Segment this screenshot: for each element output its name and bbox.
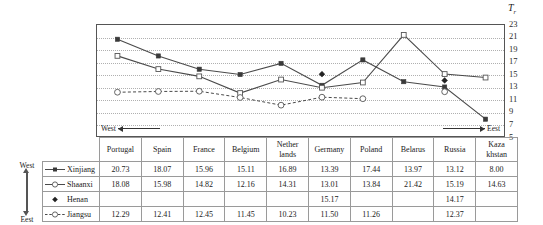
arrow-left-icon: [118, 125, 160, 132]
column-header-spain: Spain: [141, 138, 183, 162]
column-header-france: France: [183, 138, 225, 162]
column-header-germany: Germany: [308, 138, 350, 162]
legend-item-jiangsu[interactable]: Jiangsu: [43, 207, 100, 222]
cell-jiangsu-france: 12.45: [183, 207, 225, 222]
cell-xinjiang-poland: 17.44: [350, 162, 392, 177]
cell-shaanxi-belgium: 12.16: [225, 177, 267, 192]
column-header-belgium: Belgium: [225, 138, 267, 162]
chart-west-label: West: [101, 124, 116, 133]
datapoint-jiangsu-belgium: [237, 95, 243, 101]
column-header-kaza-khstan: Kazakhstan: [476, 138, 518, 162]
cell-henan-belarus: [392, 192, 434, 207]
table-row: Shaanxi18.0815.9814.8212.1614.3113.0113.…: [43, 177, 518, 192]
series-shaanxi: [115, 33, 488, 96]
cell-xinjiang-germany: 13.39: [308, 162, 350, 177]
datapoint-jiangsu-spain: [155, 89, 161, 95]
chart-plot-area: West Eest: [96, 24, 505, 137]
cell-henan-portugal: [100, 192, 142, 207]
y-tick-11: 11: [509, 95, 517, 104]
datapoint-shaanxi-nether-lands: [279, 77, 284, 82]
column-header-russia: Russia: [434, 138, 476, 162]
column-header-belarus: Belarus: [392, 138, 434, 162]
datapoint-shaanxi-poland: [360, 80, 365, 85]
legend-item-xinjiang[interactable]: Xinjiang: [43, 162, 100, 177]
cell-xinjiang-nether-lands: 16.89: [267, 162, 309, 177]
legend-marker-jiangsu-icon: [45, 210, 65, 219]
series-line-xinjiang: [117, 39, 485, 119]
cell-henan-france: [183, 192, 225, 207]
datapoint-jiangsu-poland: [360, 96, 366, 102]
cell-xinjiang-russia: 13.12: [434, 162, 476, 177]
cell-shaanxi-nether-lands: 14.31: [267, 177, 309, 192]
datapoint-jiangsu-germany: [319, 94, 325, 100]
series-line-shaanxi: [117, 35, 485, 93]
datapoint-xinjiang-spain: [156, 54, 160, 58]
datapoint-shaanxi-france: [197, 74, 202, 79]
series-plot: [97, 25, 506, 138]
cell-henan-spain: [141, 192, 183, 207]
datapoint-xinjiang-portugal: [115, 37, 119, 41]
cell-jiangsu-russia: 12.37: [434, 207, 476, 222]
datapoint-shaanxi-kaza-khstan: [483, 75, 488, 80]
table-corner-blank: [43, 138, 100, 162]
cell-henan-belgium: [225, 192, 267, 207]
cell-xinjiang-spain: 18.07: [141, 162, 183, 177]
side-axis-bar: [26, 172, 28, 213]
arrow-right-icon: [443, 125, 485, 132]
legend-label-xinjiang: Xinjiang: [67, 165, 95, 174]
datapoint-xinjiang-kaza-khstan: [483, 117, 487, 121]
chart-east-indicator: Eest: [443, 124, 500, 133]
side-axis-bottom-label: Eest: [12, 215, 42, 224]
cell-henan-russia: 14.17: [434, 192, 476, 207]
cell-jiangsu-kaza-khstan: [476, 207, 518, 222]
table-row: Henan15.1714.17: [43, 192, 518, 207]
series-jiangsu: [115, 88, 448, 108]
y-tick-7: 7: [509, 120, 513, 129]
cell-shaanxi-poland: 13.84: [350, 177, 392, 192]
datapoint-shaanxi-portugal: [115, 53, 120, 58]
legend-marker-henan-icon: [45, 195, 65, 204]
legend-label-henan: Henan: [67, 195, 88, 204]
cell-jiangsu-belgium: 11.45: [225, 207, 267, 222]
legend-item-henan[interactable]: Henan: [43, 192, 100, 207]
cell-jiangsu-spain: 12.41: [141, 207, 183, 222]
cell-shaanxi-belarus: 21.42: [392, 177, 434, 192]
datapoint-shaanxi-spain: [156, 67, 161, 72]
cell-xinjiang-france: 15.96: [183, 162, 225, 177]
cell-xinjiang-kaza-khstan: 8.00: [476, 162, 518, 177]
cell-jiangsu-portugal: 12.29: [100, 207, 142, 222]
cell-henan-nether-lands: [267, 192, 309, 207]
chart-west-indicator: West: [101, 124, 160, 133]
cell-shaanxi-germany: 13.01: [308, 177, 350, 192]
y-axis-tick-labels: 23211917151311975: [507, 14, 541, 144]
datapoint-henan-russia: [442, 78, 448, 84]
legend-marker-xinjiang-icon: [45, 165, 65, 174]
datapoint-xinjiang-france: [197, 67, 201, 71]
cell-henan-kaza-khstan: [476, 192, 518, 207]
cell-shaanxi-russia: 15.19: [434, 177, 476, 192]
series-xinjiang: [115, 37, 487, 121]
legend-label-jiangsu: Jiangsu: [67, 210, 91, 219]
table-row: Xinjiang20.7318.0715.9615.1116.8913.3917…: [43, 162, 518, 177]
datapoint-henan-germany: [319, 71, 325, 77]
legend-item-shaanxi[interactable]: Shaanxi: [43, 177, 100, 192]
table-row: Jiangsu12.2912.4112.4511.4510.2311.5011.…: [43, 207, 518, 222]
y-tick-23: 23: [509, 20, 518, 29]
datapoint-shaanxi-belarus: [401, 33, 406, 38]
series-henan: [319, 71, 448, 83]
data-table: PortugalSpainFranceBelgiumNetherlandsGer…: [42, 137, 518, 222]
cell-jiangsu-nether-lands: 10.23: [267, 207, 309, 222]
cell-henan-poland: [350, 192, 392, 207]
figure-root: Tr 23211917151311975 West Eest West Eest…: [0, 0, 543, 225]
datapoint-xinjiang-belgium: [238, 72, 242, 76]
column-header-nether-lands: Netherlands: [267, 138, 309, 162]
y-tick-21: 21: [509, 32, 518, 41]
datapoint-jiangsu-france: [196, 88, 202, 94]
datapoint-xinjiang-poland: [361, 58, 365, 62]
y-tick-9: 9: [509, 107, 513, 116]
y-tick-19: 19: [509, 45, 518, 54]
cell-jiangsu-germany: 11.50: [308, 207, 350, 222]
cell-xinjiang-belgium: 15.11: [225, 162, 267, 177]
datapoint-shaanxi-germany: [320, 85, 325, 90]
legend-marker-shaanxi-icon: [45, 180, 65, 189]
